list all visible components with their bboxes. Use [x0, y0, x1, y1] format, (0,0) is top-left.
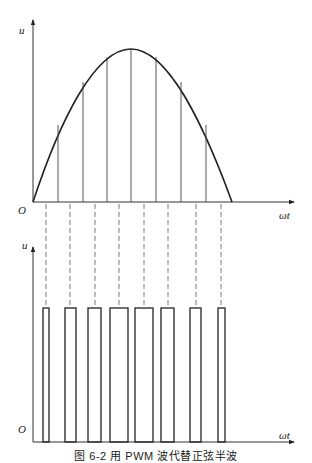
cropped-text-strip: [0, 0, 312, 5]
bottom-x-axis-label: ωt: [279, 430, 290, 441]
pwm-pulses: [43, 308, 225, 442]
top-plot: [33, 20, 294, 202]
top-x-axis-label: ωt: [279, 210, 290, 221]
top-origin-label: O: [18, 205, 26, 216]
bottom-plot: [33, 247, 294, 442]
sine-half-wave: [33, 49, 232, 202]
top-y-axis-label: u: [19, 25, 25, 36]
figure-caption: 图 6-2 用 PWM 波代替正弦半波: [0, 447, 312, 463]
bottom-y-axis-label: u: [22, 240, 28, 251]
bottom-origin-label: O: [18, 424, 26, 435]
pwm-diagram: [0, 0, 312, 463]
segment-dividers: [58, 49, 206, 202]
dashed-connectors: [46, 204, 221, 308]
